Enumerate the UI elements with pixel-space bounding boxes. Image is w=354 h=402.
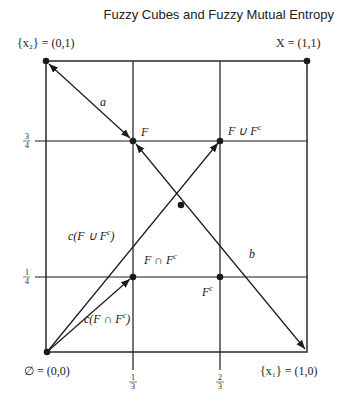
point-F-union-Fc bbox=[217, 138, 224, 145]
tick-label-y-one-quarter: 1 4 bbox=[23, 268, 30, 286]
point-x2 bbox=[43, 58, 50, 65]
label-x2-corner: {x₂} = (0,1) bbox=[17, 36, 74, 50]
point-Fc bbox=[217, 274, 224, 281]
tick-label-x-one-third: 1 3 bbox=[129, 373, 137, 391]
label-edge-c-intersect: c(F ∩ Fc) bbox=[84, 311, 130, 326]
tick-label-x-two-thirds: 2 3 bbox=[216, 373, 224, 391]
label-Fc: Fc bbox=[201, 284, 213, 299]
point-X bbox=[304, 58, 311, 65]
label-F-intersect-Fc: F ∩ Fc bbox=[143, 252, 177, 267]
point-empty-set bbox=[44, 349, 51, 356]
svg-text:3: 3 bbox=[131, 382, 135, 391]
label-x1-corner: {x₁} = (1,0) bbox=[260, 364, 317, 378]
point-F bbox=[130, 138, 137, 145]
point-center bbox=[178, 202, 185, 209]
unit-square bbox=[46, 61, 307, 352]
label-F: F bbox=[140, 125, 149, 139]
label-edge-c-union: c(F ∪ Fc) bbox=[68, 228, 115, 243]
svg-text:3: 3 bbox=[218, 382, 222, 391]
edge-a bbox=[49, 64, 130, 138]
tick-label-y-three-quarters: 3 4 bbox=[23, 132, 30, 150]
point-F-intersect-Fc bbox=[130, 274, 137, 281]
label-edge-a: a bbox=[100, 95, 106, 109]
label-F-union-Fc: F ∪ Fc bbox=[227, 123, 262, 138]
fuzzy-cube-diagram: {x₂} = (0,1) X = (1,1) ∅ = (0,0) {x₁} = … bbox=[0, 0, 354, 402]
svg-text:3: 3 bbox=[25, 132, 29, 141]
svg-text:1: 1 bbox=[131, 373, 135, 382]
svg-text:4: 4 bbox=[25, 141, 29, 150]
svg-text:1: 1 bbox=[25, 268, 29, 277]
svg-text:4: 4 bbox=[25, 277, 29, 286]
label-X-corner: X = (1,1) bbox=[276, 36, 320, 50]
label-edge-b: b bbox=[249, 247, 255, 261]
label-empty-set-corner: ∅ = (0,0) bbox=[24, 364, 70, 378]
svg-text:2: 2 bbox=[218, 373, 222, 382]
